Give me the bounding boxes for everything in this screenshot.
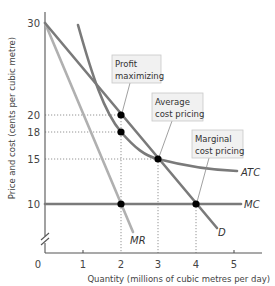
- y-tick-10: 10: [27, 199, 40, 210]
- y-tick-20: 20: [27, 110, 40, 121]
- x-tick-2: 2: [118, 259, 124, 270]
- annotation-marginal-cost-pricing: Marginal cost pricing: [192, 130, 244, 158]
- y-tick-15: 15: [27, 154, 40, 165]
- demand-curve: [45, 23, 217, 228]
- label-mr: MR: [130, 235, 146, 246]
- leader-marginal: [197, 158, 209, 202]
- x-axis-title: Quantity (millions of cubic metres per d…: [87, 274, 270, 284]
- y-tick-labels: 30 20 18 15 10: [27, 18, 40, 210]
- label-mc: MC: [244, 199, 260, 210]
- annotation-line-1: Average: [155, 97, 190, 107]
- guide-lines: [45, 115, 196, 253]
- annotation-line-1: Profit: [115, 59, 138, 69]
- x-tick-0: 0: [35, 259, 41, 270]
- y-tick-18: 18: [27, 127, 40, 138]
- leader-average: [159, 121, 172, 157]
- annotation-profit-maximizing: Profit maximizing: [112, 55, 164, 83]
- point-profit-max-cost: [117, 128, 124, 135]
- y-tick-30: 30: [27, 18, 40, 29]
- point-profit-max-price: [117, 111, 124, 118]
- x-tick-3: 3: [155, 259, 161, 270]
- point-marginal-cost-pricing: [192, 200, 199, 207]
- x-tick-labels: 0 1 2 3 4 5: [35, 259, 237, 270]
- annotation-line-2: cost pricing: [155, 109, 204, 119]
- chart: Profit maximizing Average cost pricing M…: [0, 0, 275, 286]
- point-average-cost-pricing: [154, 155, 161, 162]
- annotation-line-2: cost pricing: [195, 146, 244, 156]
- label-d: D: [218, 227, 226, 238]
- annotation-average-cost-pricing: Average cost pricing: [152, 93, 204, 121]
- x-tick-4: 4: [193, 259, 199, 270]
- leader-profit: [122, 83, 130, 113]
- y-axis-title: Price and cost (cents per cubic metre): [7, 37, 17, 199]
- x-tick-5: 5: [231, 259, 237, 270]
- curves: [45, 23, 241, 232]
- annotation-line-2: maximizing: [115, 71, 164, 81]
- label-atc: ATC: [240, 167, 260, 178]
- annotation-line-1: Marginal: [195, 134, 232, 144]
- x-tick-1: 1: [80, 259, 86, 270]
- point-mr-equals-mc: [117, 200, 124, 207]
